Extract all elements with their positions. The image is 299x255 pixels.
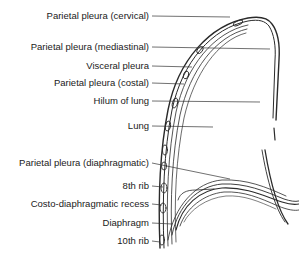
label-parietal-pleura-cervical: Parietal pleura (cervical) xyxy=(47,10,149,21)
label-10th-rib: 10th rib xyxy=(117,235,149,246)
leader-diaphragm xyxy=(152,223,172,224)
leader-parietal-costal xyxy=(152,83,184,84)
leader-parietal-mediastinal xyxy=(152,47,270,49)
leader-hilum xyxy=(152,101,260,102)
pleura-diagram: Parietal pleura (cervical) Parietal pleu… xyxy=(0,0,299,255)
leader-10th-rib xyxy=(152,241,160,242)
leader-visceral xyxy=(152,66,192,67)
leader-lung xyxy=(152,126,213,127)
label-diaphragm: Diaphragm xyxy=(103,217,149,228)
label-parietal-pleura-costal: Parietal pleura (costal) xyxy=(54,77,149,88)
leader-parietal-cervical xyxy=(152,16,230,17)
label-parietal-pleura-mediastinal: Parietal pleura (mediastinal) xyxy=(31,41,149,52)
label-hilum-of-lung: Hilum of lung xyxy=(94,95,149,106)
lung-pleura-drawing xyxy=(0,0,299,255)
label-lung: Lung xyxy=(128,120,149,131)
label-parietal-pleura-diaphragmatic: Parietal pleura (diaphragmatic) xyxy=(19,157,149,168)
label-8th-rib: 8th rib xyxy=(123,180,149,191)
label-costo-diaphragmatic-recess: Costo-diaphragmatic recess xyxy=(31,198,149,209)
label-visceral-pleura: Visceral pleura xyxy=(86,60,149,71)
